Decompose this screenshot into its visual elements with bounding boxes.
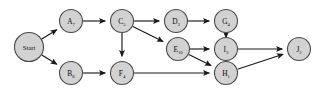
edge-c-to-e <box>133 26 163 41</box>
node-c[interactable]: C5 <box>111 10 134 33</box>
node-f[interactable]: F4 <box>111 62 134 85</box>
edge-start-to-a <box>42 30 57 39</box>
node-i[interactable]: I3 <box>215 38 238 61</box>
node-e[interactable]: E10 <box>167 38 190 61</box>
node-h[interactable]: H1 <box>215 62 238 85</box>
node-start[interactable]: Start <box>15 33 44 62</box>
node-g[interactable]: G4 <box>215 10 238 33</box>
edge-h-to-j <box>237 54 283 69</box>
edge-e-to-h <box>189 54 211 65</box>
graph-canvas: StartA7B8C5D3E10F4G4I3H1J2 <box>0 0 326 92</box>
activity-network-diagram: StartA7B8C5D3E10F4G4I3H1J2 <box>0 0 326 92</box>
node-b[interactable]: B8 <box>60 62 83 85</box>
node-j[interactable]: J2 <box>288 38 311 61</box>
node-label-start: Start <box>23 44 36 51</box>
edge-start-to-b <box>42 55 57 64</box>
node-a[interactable]: A7 <box>60 10 83 33</box>
node-d[interactable]: D3 <box>165 10 188 33</box>
node-circle-e <box>167 38 190 61</box>
